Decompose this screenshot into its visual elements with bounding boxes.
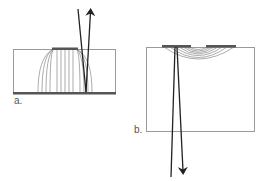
bottom-electrode-a xyxy=(13,92,116,95)
panel-a xyxy=(13,9,116,95)
transmitted-beam-b xyxy=(177,47,183,171)
panel-a-label: a. xyxy=(14,95,22,106)
substrate-b xyxy=(147,48,255,132)
reflected-beam-a xyxy=(86,12,91,92)
top-electrode-a xyxy=(52,48,78,51)
substrate-a xyxy=(14,50,116,94)
right-electrode-b xyxy=(206,45,236,48)
panel-b xyxy=(147,45,255,177)
incident-beam-b xyxy=(171,47,175,177)
diagram-canvas xyxy=(0,0,266,181)
panel-b-label: b. xyxy=(134,124,142,135)
